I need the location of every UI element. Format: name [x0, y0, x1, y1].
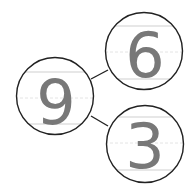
part-circle-top: 6 [100, 13, 190, 93]
whole-circle: 9 [10, 58, 100, 140]
part-value-top: 6 [125, 19, 164, 92]
connector-whole-to-part-bottom [91, 116, 108, 126]
whole-value: 9 [36, 66, 75, 139]
part-circle-bottom: 3 [100, 106, 190, 184]
connector-whole-to-part-top [91, 70, 108, 79]
part-value-bottom: 3 [125, 110, 164, 183]
number-bond-diagram: 9 6 3 [0, 0, 194, 195]
